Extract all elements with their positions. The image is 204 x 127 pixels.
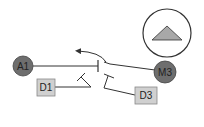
compass-indicator — [143, 9, 191, 57]
d3-terminal-bar — [104, 74, 114, 78]
node-d3[interactable]: D3 — [135, 87, 157, 104]
node-a1-label: A1 — [17, 61, 30, 72]
curved-arrow-icon — [78, 51, 106, 62]
node-a1[interactable]: A1 — [13, 56, 33, 76]
node-m3-label: M3 — [158, 67, 172, 78]
connector-d3 — [104, 76, 135, 95]
node-m3[interactable]: M3 — [154, 61, 176, 83]
connector-m3 — [104, 62, 155, 70]
node-d1-label: D1 — [40, 82, 53, 93]
node-d3-label: D3 — [140, 90, 153, 101]
connector-d1 — [55, 77, 91, 87]
diagram-canvas: A1 M3 D1 D3 — [0, 0, 204, 127]
node-d1[interactable]: D1 — [37, 79, 55, 96]
